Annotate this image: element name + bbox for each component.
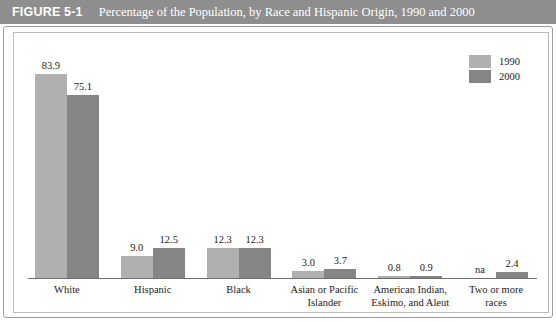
figure-container: FIGURE 5-1 Percentage of the Population,… — [0, 0, 556, 321]
bar-item: 0.8 — [378, 41, 410, 278]
bar-value-label: 12.3 — [213, 235, 231, 246]
bar-group: 3.03.7 — [281, 41, 367, 278]
bar-item: na — [464, 41, 496, 278]
bar-group: 12.312.3 — [196, 41, 282, 278]
category-label: Black — [196, 283, 282, 309]
bar-item: 2.4 — [496, 41, 528, 278]
bar-group: na2.4 — [453, 41, 539, 278]
bar-value-label: 0.8 — [388, 263, 401, 274]
bar-item: 0.9 — [410, 41, 442, 278]
x-axis-line — [28, 278, 537, 279]
bar-item: 3.7 — [324, 41, 356, 278]
bar — [153, 248, 185, 278]
bar-value-label: 2.4 — [505, 259, 518, 270]
category-label: American Indian,Eskimo, and Aleut — [367, 283, 453, 309]
bar-value-label: 9.0 — [130, 243, 143, 254]
bar — [121, 256, 153, 278]
bar-groups: 83.975.19.012.512.312.33.03.70.80.9na2.4 — [24, 41, 539, 278]
category-label: Two or moreraces — [453, 283, 539, 309]
bar — [67, 95, 99, 278]
bar-item: 75.1 — [67, 41, 99, 278]
figure-title: Percentage of the Population, by Race an… — [99, 5, 475, 20]
category-label: Asian or PacificIslander — [281, 283, 367, 309]
bar-item: 12.5 — [153, 41, 185, 278]
bar-item: 9.0 — [121, 41, 153, 278]
figure-panel-outer: 1990 2000 83.975.19.012.512.312.33.03.70… — [3, 26, 553, 318]
bar-value-label: 12.5 — [160, 235, 178, 246]
category-label: White — [24, 283, 110, 309]
plot-area: 83.975.19.012.512.312.33.03.70.80.9na2.4 — [24, 41, 539, 279]
bar-group: 83.975.1 — [24, 41, 110, 278]
bar — [35, 74, 67, 278]
bar-value-label: 3.0 — [302, 258, 315, 269]
bar — [292, 271, 324, 278]
bar-group: 9.012.5 — [110, 41, 196, 278]
bar-value-label: 3.7 — [334, 256, 347, 267]
bar-item: 12.3 — [207, 41, 239, 278]
bar-value-label: 0.9 — [420, 263, 433, 274]
bar-group: 0.80.9 — [367, 41, 453, 278]
bar-value-label: 83.9 — [42, 61, 60, 72]
bar — [207, 248, 239, 278]
bar-value-label: 75.1 — [74, 82, 92, 93]
category-label: Hispanic — [110, 283, 196, 309]
bar — [239, 248, 271, 278]
figure-number: FIGURE 5-1 — [12, 5, 83, 19]
figure-header-bar: FIGURE 5-1 Percentage of the Population,… — [0, 0, 556, 24]
bar-value-label: na — [475, 265, 485, 276]
figure-panel-inner: 1990 2000 83.975.19.012.512.312.33.03.70… — [13, 32, 549, 313]
bar-item: 3.0 — [292, 41, 324, 278]
bar-value-label: 12.3 — [245, 235, 263, 246]
category-labels: WhiteHispanicBlackAsian or PacificIsland… — [24, 283, 539, 309]
bar-item: 12.3 — [239, 41, 271, 278]
bar — [324, 269, 356, 278]
bar-item: 83.9 — [35, 41, 67, 278]
